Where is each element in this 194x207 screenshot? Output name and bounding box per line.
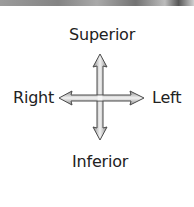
four-way-arrow-icon — [0, 0, 194, 207]
